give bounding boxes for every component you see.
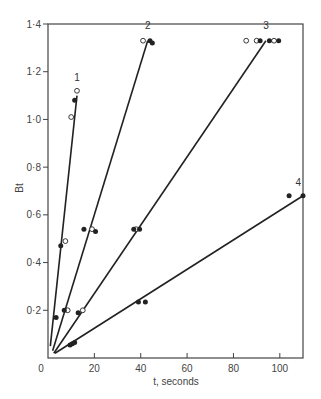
filled-point	[72, 98, 77, 103]
x-tick-label: 100	[271, 363, 288, 374]
y-tick-label: 0·4	[27, 257, 42, 268]
y-tick-label: 0·2	[27, 305, 42, 316]
series-label: 4	[296, 177, 302, 188]
y-tick-label: 1·0	[27, 114, 42, 125]
y-tick-label: 1·4	[27, 19, 42, 30]
filled-point	[81, 227, 86, 232]
filled-point	[76, 310, 81, 315]
open-point	[244, 38, 249, 43]
series-1: 1	[50, 72, 80, 346]
series-label: 2	[145, 20, 151, 31]
fit-line	[54, 41, 266, 354]
y-tick-label: 0·8	[27, 162, 42, 173]
plot-border	[48, 24, 303, 358]
filled-point	[72, 340, 77, 345]
filled-point	[276, 38, 281, 43]
open-point	[80, 308, 85, 313]
open-point	[272, 38, 277, 43]
data-series: 1234	[50, 20, 305, 353]
series-label: 1	[74, 72, 80, 83]
open-point	[141, 38, 146, 43]
filled-point	[136, 299, 141, 304]
chart: 204060801000·20·40·60·81·01·21·4 1234 t,…	[0, 0, 321, 399]
y-tick-label: 1·2	[27, 66, 42, 77]
filled-point	[301, 193, 306, 198]
x-axis-label: t, seconds	[153, 376, 199, 387]
x-tick-label: 80	[228, 363, 240, 374]
series-4: 4	[55, 177, 306, 353]
filled-point	[258, 38, 263, 43]
open-point	[63, 239, 68, 244]
filled-point	[131, 227, 136, 232]
filled-point	[267, 38, 272, 43]
filled-point	[150, 41, 155, 46]
origin-label: 0	[38, 363, 44, 374]
filled-point	[137, 227, 142, 232]
open-point	[75, 88, 80, 93]
filled-point	[287, 193, 292, 198]
filled-point	[93, 229, 98, 234]
plot-frame	[48, 24, 303, 358]
x-tick-label: 40	[135, 363, 147, 374]
filled-point	[58, 243, 63, 248]
series-3: 3	[54, 20, 281, 353]
filled-point	[62, 308, 67, 313]
filled-point	[143, 299, 148, 304]
y-tick-label: 0·6	[27, 209, 42, 220]
y-axis-label: Bt	[14, 183, 25, 193]
filled-point	[54, 315, 59, 320]
x-tick-label: 60	[182, 363, 194, 374]
series-label: 3	[263, 20, 269, 31]
open-point	[69, 115, 74, 120]
x-tick-label: 20	[89, 363, 101, 374]
